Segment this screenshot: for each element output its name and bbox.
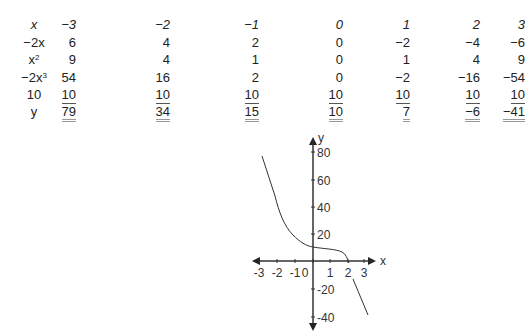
function-graph: -3-2-10123 80604020-20-40 x y <box>0 0 525 333</box>
x-tick-label: 3 <box>361 266 368 280</box>
curve-lower <box>353 279 368 315</box>
x-axis-label: x <box>380 254 386 268</box>
y-tick-label: 20 <box>317 228 331 242</box>
y-tick-label: 60 <box>317 174 331 188</box>
y-ticks: 80604020-20-40 <box>311 146 335 325</box>
x-tick-label: -3 <box>254 266 265 280</box>
y-axis-label: y <box>318 131 324 145</box>
curve-upper <box>262 156 349 263</box>
y-tick-label: 80 <box>317 146 331 160</box>
y-tick-label: 40 <box>317 201 331 215</box>
x-tick-label: 2 <box>345 266 352 280</box>
x-tick-label: 1 <box>327 266 334 280</box>
x-tick-label: -1 <box>290 266 301 280</box>
y-tick-label: -20 <box>317 283 335 297</box>
x-ticks: -3-2-10123 <box>254 259 368 280</box>
x-tick-label: 0 <box>302 266 309 280</box>
y-tick-label: -40 <box>317 311 335 325</box>
x-tick-label: -2 <box>272 266 283 280</box>
